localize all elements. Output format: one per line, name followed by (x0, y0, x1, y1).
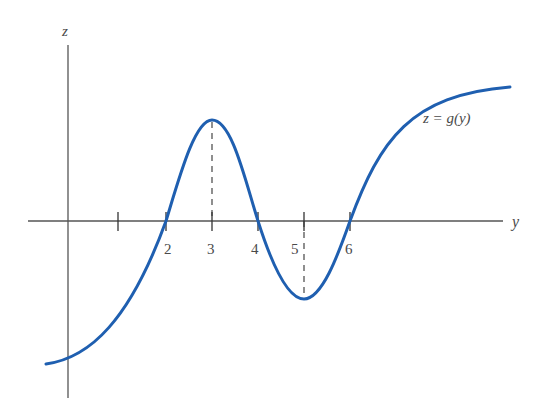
z-axis-label: z (61, 23, 68, 39)
tick-label-6: 6 (345, 241, 353, 257)
tick-label-5: 5 (291, 241, 299, 257)
tick-label-4: 4 (251, 241, 259, 257)
tick-label-2: 2 (164, 241, 172, 257)
tick-label-3: 3 (207, 241, 215, 257)
y-axis-label: y (510, 213, 520, 231)
function-graph: z y z = g(y) 2 3 4 5 6 (0, 0, 549, 414)
curve-g (46, 87, 510, 364)
curve-label: z = g(y) (422, 110, 471, 127)
